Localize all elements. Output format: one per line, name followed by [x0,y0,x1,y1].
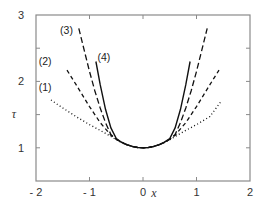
curve-1 [51,100,221,148]
y-tick-label: 3 [18,9,24,21]
curve-3 [79,28,207,148]
curves [51,28,221,148]
y-tick-label: 2 [18,75,24,87]
chart: - 2- 1012123 (1)(2)(3)(4) x τ [0,0,265,207]
y-tick-label: 1 [18,142,24,154]
x-tick-label: 2 [247,186,253,198]
axis-ticks [36,15,250,181]
x-tick-label: - 2 [30,186,43,198]
plot-frame [36,15,250,181]
curve-label-3: (3) [60,24,73,36]
curve-2 [67,70,219,148]
tick-labels: - 2- 1012123 [18,9,253,198]
x-tick-label: 0 [140,186,146,198]
x-tick-label: - 1 [83,186,96,198]
curve-label-1: (1) [39,81,52,93]
y-axis-label: τ [12,107,17,121]
x-tick-label: 1 [193,186,199,198]
curve-label-4: (4) [98,51,111,63]
x-axis-label: x [150,186,157,200]
plot-border [36,15,250,181]
curve-label-2: (2) [39,55,52,67]
